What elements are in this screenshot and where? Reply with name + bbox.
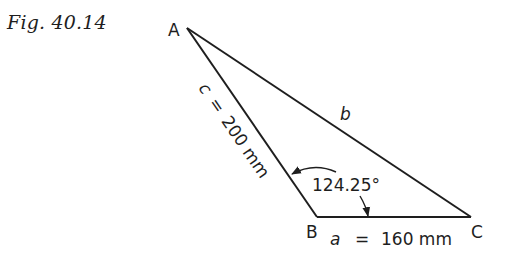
side-c-line xyxy=(187,28,317,217)
side-a-equals: = xyxy=(355,229,369,249)
side-a-value: 160 mm xyxy=(381,229,452,249)
side-a-symbol: a xyxy=(330,229,340,249)
angle-b-value: 124.25° xyxy=(312,175,380,195)
side-c-annotation: c = 200 mm xyxy=(195,79,274,182)
vertex-a-label: A xyxy=(168,20,180,40)
side-c-equals: = xyxy=(205,94,230,117)
vertex-b-label: B xyxy=(306,222,318,242)
triangle-diagram: A B C b a = 160 mm c = 200 mm 124.25° xyxy=(0,0,512,256)
vertex-c-label: C xyxy=(471,222,483,242)
side-c-symbol: c xyxy=(195,79,217,99)
side-a-annotation: a = 160 mm xyxy=(330,229,452,249)
angle-b-arc-upper xyxy=(292,167,336,174)
side-b-label: b xyxy=(340,104,351,124)
angle-b-arc-lower xyxy=(360,196,368,216)
side-c-value: 200 mm xyxy=(217,112,274,182)
